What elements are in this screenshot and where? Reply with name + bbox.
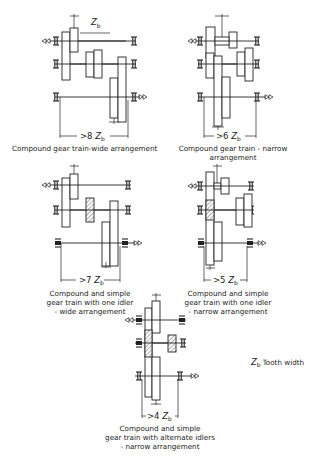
bearing-icon <box>179 316 185 324</box>
output-arrow-icon <box>191 374 199 379</box>
input-arrow-icon <box>42 39 50 44</box>
gear <box>62 32 70 80</box>
diagram-caption: - narrow arrangement <box>189 307 268 316</box>
gear <box>245 48 253 81</box>
overall-width-dimension: >4 Zb <box>147 411 172 422</box>
diagram-caption: Compound gear train - narrow <box>179 144 288 153</box>
input-arrow-icon <box>42 183 50 188</box>
diagram-caption: gear train with one idler <box>47 298 134 307</box>
overall-width-dimension: >6 Zb <box>216 131 241 142</box>
input-arrow-icon <box>125 318 133 323</box>
bearing-icon <box>122 239 128 247</box>
gear <box>86 52 94 77</box>
bearing-icon <box>136 339 142 347</box>
diagram-compound-simple-one-idler-narrow: >5 Zb Compound and simple gear train wit… <box>185 164 272 316</box>
gear <box>236 198 244 225</box>
gear <box>214 56 222 126</box>
gear <box>70 174 78 199</box>
diagram-caption: Compound and simple <box>50 289 131 298</box>
input-arrow-icon <box>188 39 196 44</box>
diagram-caption: gear train with one idler <box>185 298 272 307</box>
output-arrow-icon <box>134 241 142 246</box>
gear <box>229 32 237 48</box>
legend: ZbTooth width <box>250 357 304 368</box>
diagram-compound-simple-alternate-idlers-narrow: >4 Zb Compound and simple gear train wit… <box>105 293 215 451</box>
gear-train-arrangements-figure: Zb >8 Zb Compound gear train-wide arrang… <box>0 0 318 466</box>
idler-gear <box>145 330 152 357</box>
gear <box>152 357 160 400</box>
diagram-caption: - narrow arrangement <box>121 442 200 451</box>
diagram-caption: gear train with alternate idlers <box>105 433 215 442</box>
tooth-width-label: Zb <box>90 17 101 29</box>
overall-width-dimension: >7 Zb <box>79 275 104 286</box>
gear <box>206 53 214 78</box>
output-arrow-icon <box>258 241 266 246</box>
bearing-icon <box>55 239 61 247</box>
diagram-compound-narrow: >6 Zb Compound gear train - narrow arran… <box>179 14 288 162</box>
gear <box>214 222 222 261</box>
gear <box>222 77 230 118</box>
gear <box>102 222 110 266</box>
gear <box>244 194 252 227</box>
bearing-icon <box>136 316 142 324</box>
legend-text: ZbTooth width <box>250 357 304 368</box>
overall-width-dimension: >8 Zb <box>80 131 105 142</box>
diagram-caption: Compound gear train-wide arrangement <box>12 144 158 153</box>
diagram-caption: - wide arrangement <box>55 307 126 316</box>
bearing-icon <box>198 239 204 247</box>
gear <box>152 301 160 333</box>
overall-width-dimension: >5 Zb <box>213 275 238 286</box>
diagram-compound-simple-one-idler-wide: >7 Zb Compound and simple gear train wit… <box>42 164 142 316</box>
gear <box>110 201 118 266</box>
diagram-caption: arrangement <box>210 153 257 162</box>
diagram-caption: Compound and simple <box>120 424 201 433</box>
bearing-icon <box>247 239 253 247</box>
diagram-caption: Compound and simple <box>188 289 269 298</box>
gear <box>70 28 78 52</box>
idler-gear <box>168 335 176 352</box>
output-arrow-icon <box>139 95 147 100</box>
gear <box>118 57 126 122</box>
input-arrow-icon <box>188 184 196 189</box>
output-arrow-icon <box>265 95 273 100</box>
gear <box>110 78 118 118</box>
diagram-compound-wide: Zb >8 Zb Compound gear train-wide arrang… <box>12 14 158 153</box>
